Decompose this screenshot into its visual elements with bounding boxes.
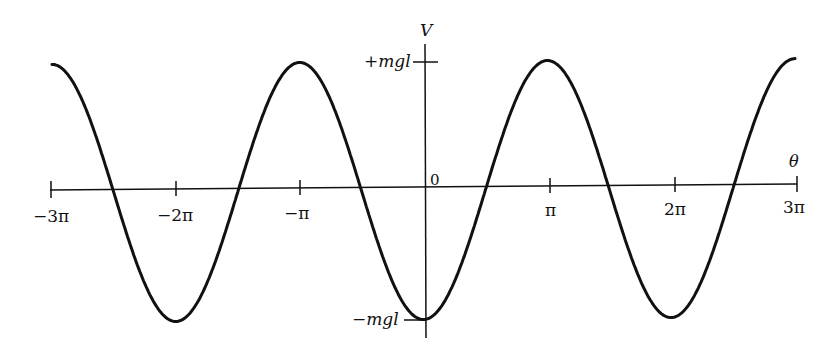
potential-energy-chart: V θ 0 +mgl −mgl −3π −2π −π π 2π 3π — [0, 0, 833, 355]
tick-label-minus-2pi: −2π — [157, 205, 193, 225]
theta-axis — [50, 184, 797, 190]
plus-mgl-label: +mgl — [364, 51, 411, 71]
potential-curve — [52, 59, 795, 322]
tick-label-3pi: 3π — [783, 197, 805, 217]
tick-label-pi: π — [545, 200, 556, 220]
tick-label-minus-3pi: −3π — [33, 206, 69, 226]
tick-label-2pi: 2π — [664, 199, 686, 219]
tick-label-minus-pi: −π — [284, 203, 309, 223]
v-axis-label: V — [420, 20, 434, 40]
origin-label: 0 — [430, 171, 440, 189]
theta-axis-label: θ — [789, 152, 799, 171]
minus-mgl-label: −mgl — [352, 309, 399, 329]
v-axis — [425, 44, 426, 338]
